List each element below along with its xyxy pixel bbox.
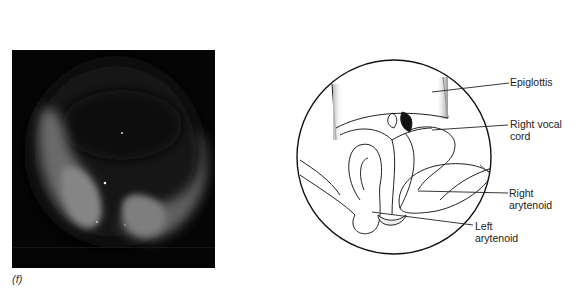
label-right-vocal-cord: Right vocal cord	[510, 118, 562, 142]
label-left-arytenoid-line1: Left	[475, 220, 518, 232]
larynx-diagram	[0, 0, 581, 293]
diagram-anatomy	[300, 77, 492, 234]
leader-right-arytenoid	[418, 191, 508, 193]
label-right-vocal-cord-line2: cord	[510, 130, 562, 142]
label-left-arytenoid-line2: arytenoid	[475, 232, 518, 244]
label-right-arytenoid: Right arytenoid	[509, 187, 552, 211]
label-epiglottis: Epiglottis	[510, 76, 553, 88]
label-right-vocal-cord-line1: Right vocal	[510, 118, 562, 130]
label-right-arytenoid-line1: Right	[509, 187, 552, 199]
leader-right-vocal-cord	[432, 125, 508, 130]
label-epiglottis-text: Epiglottis	[510, 76, 553, 88]
label-right-arytenoid-line2: arytenoid	[509, 199, 552, 211]
label-left-arytenoid: Left arytenoid	[475, 220, 518, 244]
